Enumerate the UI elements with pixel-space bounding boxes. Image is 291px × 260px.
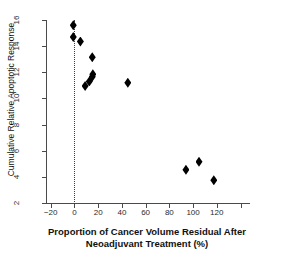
data-point-marker: [196, 157, 203, 167]
x-axis-line: [46, 203, 250, 204]
x-tick: [241, 204, 242, 208]
data-point-marker: [77, 37, 84, 47]
y-tick: [42, 203, 46, 204]
scatter-plot-figure: 246810121416 −20020406080100120 Cumulati…: [0, 0, 291, 260]
x-axis-title-line-1: Proportion of Cancer Volume Residual Aft…: [48, 226, 246, 237]
y-axis-title: Cumulative Relative Apoptotic Response: [7, 15, 16, 185]
data-point-marker: [182, 165, 189, 175]
plot-area: [46, 20, 250, 203]
x-tick-label: 120: [202, 208, 232, 217]
x-axis-title-line-2: Neoadjuvant Treatment (%): [18, 238, 276, 250]
data-point-marker: [89, 52, 96, 62]
data-point-marker: [70, 32, 77, 42]
data-point-marker: [210, 175, 217, 185]
x-axis-title: Proportion of Cancer Volume Residual Aft…: [18, 226, 276, 250]
data-point-marker: [124, 78, 131, 88]
data-point-marker: [70, 20, 77, 30]
